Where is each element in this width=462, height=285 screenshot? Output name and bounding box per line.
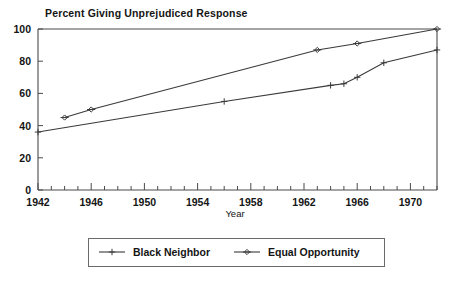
data-point-marker bbox=[313, 47, 321, 52]
data-point-marker bbox=[434, 47, 440, 53]
data-point-marker bbox=[354, 74, 360, 80]
line-chart: Percent Giving Unprejudiced Response 020… bbox=[0, 0, 462, 285]
x-axis-label: Year bbox=[225, 208, 244, 219]
series-line bbox=[38, 50, 437, 132]
data-point-marker bbox=[87, 107, 95, 112]
data-point-marker bbox=[353, 41, 361, 46]
x-tick-label: 1958 bbox=[239, 196, 263, 208]
data-point-marker bbox=[35, 129, 41, 135]
data-point-marker bbox=[341, 81, 347, 87]
x-tick-label: 1946 bbox=[80, 196, 104, 208]
series-line bbox=[65, 29, 437, 118]
legend-items: Black NeighborEqual Opportunity bbox=[99, 246, 360, 258]
legend-sample-marker bbox=[243, 249, 251, 254]
y-tick-label: 40 bbox=[19, 120, 31, 132]
x-axis-ticks: 19421946195019541958196219661970 bbox=[26, 183, 437, 208]
chart-container: Percent Giving Unprejudiced Response 020… bbox=[0, 0, 462, 285]
legend-item-1[interactable]: Black Neighbor bbox=[99, 246, 210, 258]
legend-label: Equal Opportunity bbox=[268, 246, 360, 258]
axis-frame bbox=[38, 29, 437, 190]
x-tick-label: 1950 bbox=[133, 196, 157, 208]
y-tick-label: 0 bbox=[25, 184, 31, 196]
y-axis-ticks: 020406080100 bbox=[13, 23, 43, 196]
data-point-marker bbox=[61, 115, 69, 120]
y-tick-label: 60 bbox=[19, 87, 31, 99]
series-1 bbox=[35, 47, 440, 136]
data-point-marker bbox=[221, 98, 227, 104]
x-tick-label: 1966 bbox=[346, 196, 370, 208]
x-tick-label: 1970 bbox=[399, 196, 423, 208]
data-point-marker bbox=[327, 82, 333, 88]
series-group bbox=[35, 26, 441, 135]
series-2 bbox=[61, 26, 442, 120]
legend-label: Black Neighbor bbox=[133, 246, 210, 258]
legend-item-2[interactable]: Equal Opportunity bbox=[234, 246, 360, 258]
y-tick-label: 80 bbox=[19, 55, 31, 67]
chart-legend: Black NeighborEqual Opportunity bbox=[89, 239, 385, 267]
legend-sample-marker bbox=[109, 249, 115, 255]
x-tick-label: 1954 bbox=[186, 196, 210, 208]
x-tick-label: 1942 bbox=[26, 196, 50, 208]
y-tick-label: 100 bbox=[13, 23, 31, 35]
x-tick-label: 1962 bbox=[292, 196, 316, 208]
chart-title: Percent Giving Unprejudiced Response bbox=[45, 7, 248, 19]
y-tick-label: 20 bbox=[19, 152, 31, 164]
data-point-marker bbox=[381, 60, 387, 66]
